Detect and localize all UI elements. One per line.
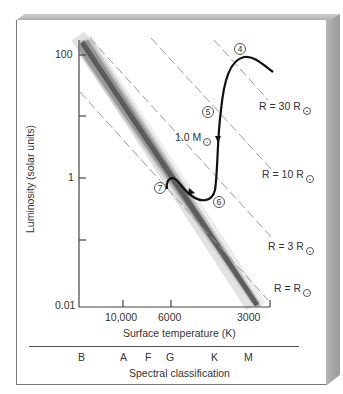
sun-symbol-icon bbox=[303, 107, 311, 115]
arrow-down-icon bbox=[215, 136, 221, 143]
sun-symbol-icon bbox=[203, 138, 211, 146]
spectral-class-b: B bbox=[78, 351, 85, 363]
main-sequence-band bbox=[78, 36, 262, 306]
spectral-label: Spectral classification bbox=[129, 367, 230, 379]
y-axis-label: Luminosity (solar units) bbox=[24, 119, 36, 239]
radius-label-30: R = 30 R bbox=[259, 100, 311, 115]
sun-symbol-icon bbox=[303, 289, 311, 297]
sun-symbol-icon bbox=[306, 175, 314, 183]
stage-marker-4: 4 bbox=[234, 43, 246, 55]
stage-marker-6: 6 bbox=[213, 196, 225, 208]
x-tick-10000: 10,000 bbox=[105, 311, 137, 323]
spectral-class-a: A bbox=[120, 351, 127, 363]
radius-label-3: R = 3 R bbox=[268, 240, 314, 255]
y-tick-1: 1 bbox=[68, 171, 74, 183]
spectral-class-k: K bbox=[211, 351, 218, 363]
stage-marker-5: 5 bbox=[202, 106, 214, 118]
radius-label-1: R = R bbox=[274, 282, 311, 297]
spectral-class-f: F bbox=[145, 351, 151, 363]
x-tick-6000: 6000 bbox=[158, 311, 181, 323]
x-tick-3000: 3000 bbox=[237, 311, 260, 323]
mass-label: 1.0 M bbox=[175, 131, 211, 146]
sun-symbol-icon bbox=[306, 247, 314, 255]
x-axis-label: Surface temperature (K) bbox=[123, 327, 236, 339]
spectral-class-g: G bbox=[166, 351, 174, 363]
y-tick-0.01: 0.01 bbox=[55, 299, 75, 311]
y-tick-100: 100 bbox=[55, 48, 73, 60]
spectral-class-m: M bbox=[244, 351, 253, 363]
stage-marker-7: 7 bbox=[154, 182, 166, 194]
radius-label-10: R = 10 R bbox=[262, 168, 314, 183]
divider bbox=[29, 346, 299, 347]
